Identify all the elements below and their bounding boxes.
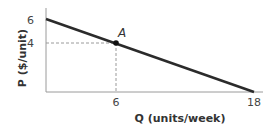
demand-line	[46, 19, 254, 92]
x-tick-6: 6	[113, 96, 120, 109]
demand-chart: A 6 4 6 18 Q (units/week) P ($/unit)	[0, 0, 270, 134]
point-a-label: A	[117, 26, 126, 40]
y-tick-6: 6	[27, 14, 34, 27]
x-tick-18: 18	[247, 96, 261, 109]
point-a-marker	[113, 40, 119, 46]
x-axis-title: Q (units/week)	[135, 112, 226, 125]
y-axis-title: P ($/unit)	[16, 29, 29, 87]
